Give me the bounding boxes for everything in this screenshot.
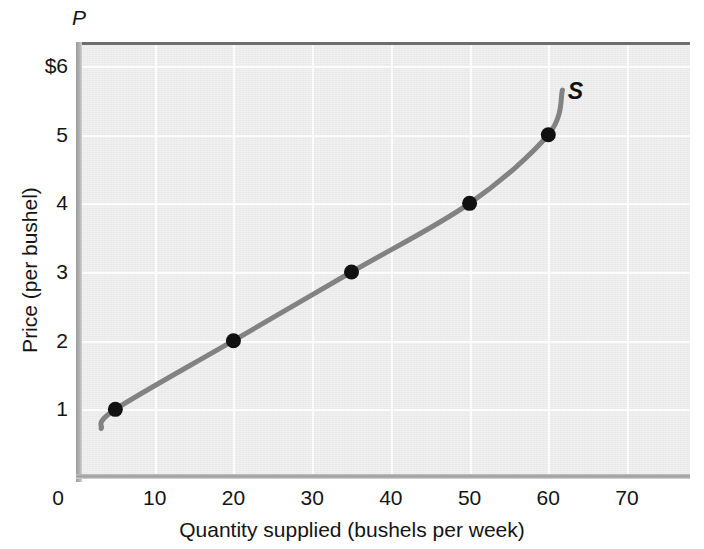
- x-tick-label: 0: [28, 487, 88, 509]
- data-point-marker: [462, 196, 477, 211]
- supply-curve-chart: 12345$6 010203040506070 Price (per bushe…: [0, 0, 704, 549]
- x-tick-label: 30: [282, 487, 342, 509]
- data-point-marker: [344, 265, 359, 280]
- x-tick-label: 20: [203, 487, 263, 509]
- x-axis-title: Quantity supplied (bushels per week): [0, 518, 704, 542]
- x-tick-label: 40: [361, 487, 421, 509]
- y-tick-label: 1: [6, 398, 68, 419]
- data-point-marker: [108, 402, 123, 417]
- supply-curve-svg: [0, 0, 704, 549]
- x-tick-label: 50: [440, 487, 500, 509]
- supply-curve-line: [101, 90, 563, 429]
- data-point-marker: [226, 333, 241, 348]
- supply-curve-label: S: [568, 78, 583, 105]
- x-tick-label: 60: [518, 487, 578, 509]
- x-tick-label: 70: [597, 487, 657, 509]
- x-tick-label: 10: [125, 487, 185, 509]
- data-point-marker: [541, 127, 556, 142]
- price-axis-symbol: P: [72, 6, 86, 30]
- y-axis-title: Price (per bushel): [18, 140, 42, 400]
- y-tick-label: $6: [6, 55, 68, 76]
